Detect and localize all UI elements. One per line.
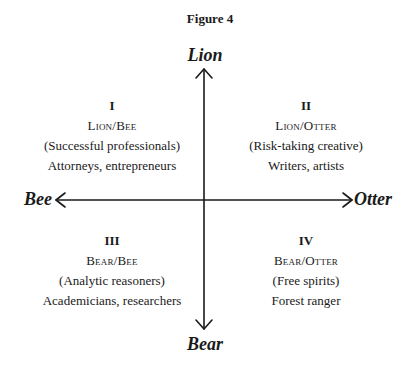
quadrant-numeral: IV bbox=[211, 231, 401, 251]
quadrant-examples: Academicians, researchers bbox=[17, 291, 207, 311]
quadrant-examples: Forest ranger bbox=[211, 291, 401, 311]
quadrant-numeral: I bbox=[17, 96, 207, 116]
axis-label-otter: Otter bbox=[354, 189, 392, 210]
axis-label-bee: Bee bbox=[24, 189, 52, 210]
quadrant-name: Lion/Otter bbox=[211, 116, 401, 136]
quadrant-description: (Risk-taking creative) bbox=[211, 136, 401, 156]
quadrant-name: Lion/Bee bbox=[17, 116, 207, 136]
quadrant-name: Bear/Bee bbox=[17, 251, 207, 271]
quadrant-numeral: II bbox=[211, 96, 401, 116]
axis-label-bear: Bear bbox=[0, 334, 410, 355]
quadrant-numeral: III bbox=[17, 231, 207, 251]
quadrant-examples: Attorneys, entrepreneurs bbox=[17, 156, 207, 176]
quadrant-3: III Bear/Bee (Analytic reasoners) Academ… bbox=[17, 231, 207, 311]
quadrant-description: (Free spirits) bbox=[211, 271, 401, 291]
quadrant-examples: Writers, artists bbox=[211, 156, 401, 176]
axis-label-lion: Lion bbox=[0, 45, 410, 66]
quadrant-2: II Lion/Otter (Risk-taking creative) Wri… bbox=[211, 96, 401, 176]
quadrant-4: IV Bear/Otter (Free spirits) Forest rang… bbox=[211, 231, 401, 311]
quadrant-1: I Lion/Bee (Successful professionals) At… bbox=[17, 96, 207, 176]
quadrant-description: (Successful professionals) bbox=[17, 136, 207, 156]
quadrant-name: Bear/Otter bbox=[211, 251, 401, 271]
quadrant-description: (Analytic reasoners) bbox=[17, 271, 207, 291]
